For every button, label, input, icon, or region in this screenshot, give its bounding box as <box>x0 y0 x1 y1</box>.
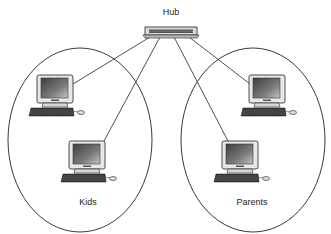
parents-computer-1 <box>241 75 297 116</box>
cable-parents-pc-1 <box>189 37 250 84</box>
kids-computer-1 <box>29 75 85 116</box>
parents-computer-2 <box>214 141 270 182</box>
kids-group-label: Kids <box>79 197 97 207</box>
parents-group-label: Parents <box>236 197 267 207</box>
kids-computer-2 <box>61 141 117 182</box>
hub-label: Hub <box>163 7 180 17</box>
network-diagram <box>0 0 331 234</box>
hub-device <box>143 27 199 38</box>
